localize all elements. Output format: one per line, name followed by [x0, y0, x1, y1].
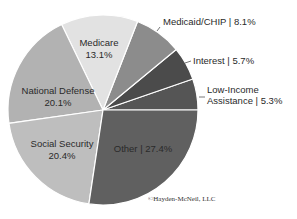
slice-label-low-income-assistance: Low-IncomeAssistance | 5.3%	[207, 84, 283, 106]
copyright-credit: ©Hayden-McNeil, LLC	[148, 195, 216, 203]
leader-line	[185, 61, 191, 63]
slice-label-medicaid-chip: Medicaid/CHIP | 8.1%	[163, 16, 256, 27]
leader-line	[157, 27, 160, 31]
slice-label-interest: Interest | 5.7%	[193, 55, 255, 66]
pie-chart: Low-IncomeAssistance | 5.3%Interest | 5.…	[0, 0, 297, 219]
pie-slice-other	[89, 110, 198, 205]
slice-label-other: Other | 27.4%	[114, 143, 173, 154]
